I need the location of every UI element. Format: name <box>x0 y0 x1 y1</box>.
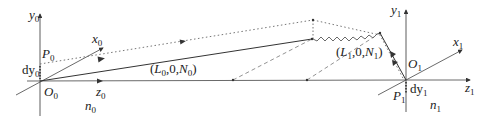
x0-label: x0 <box>91 31 103 48</box>
o0-label: O0 <box>44 84 58 101</box>
surface-point <box>311 38 313 40</box>
y0-label: y0 <box>27 7 40 24</box>
solid-arrow-icon <box>98 55 106 62</box>
z0-arrow-icon <box>97 79 103 84</box>
x1-label: x1 <box>452 34 463 51</box>
projection-point-1 <box>306 79 308 81</box>
direction0-label: (L0,0,N0) <box>150 61 197 78</box>
o1-label: O1 <box>408 56 422 73</box>
z0-label: z0 <box>95 84 106 101</box>
z-axis-line <box>27 80 406 81</box>
n0-label: n0 <box>85 98 97 115</box>
ray-tracing-diagram: y0 x0 z0 O0 P0 dy0 n0 (L0,0,N0) y1 x1 z1… <box>0 0 491 122</box>
n1-label: n1 <box>430 97 441 114</box>
p0-label: P0 <box>41 46 55 63</box>
z1-label: z1 <box>464 80 475 97</box>
direction1-label: (L1,0,N1) <box>336 44 383 61</box>
projection-point-0 <box>232 79 234 81</box>
solid-refracted-ray <box>380 33 406 80</box>
top-point <box>312 19 314 21</box>
surface-point-1 <box>379 32 381 34</box>
wavy-surface <box>313 33 380 41</box>
dotted-ray-p0 <box>40 20 313 64</box>
dy1-label: dy1 <box>410 81 428 98</box>
dotted-arrow-icon <box>180 39 187 45</box>
y1-label: y1 <box>389 2 401 19</box>
dy0-label: dy0 <box>22 62 40 79</box>
p1-label: P1 <box>392 88 405 105</box>
